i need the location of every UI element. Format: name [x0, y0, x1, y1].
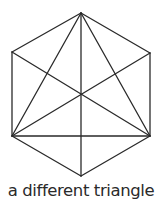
inner-line: [12, 13, 81, 136]
hexagon-triangle-diagram: [0, 0, 162, 180]
hexagon-edge: [81, 136, 150, 176]
caption: a different triangle: [0, 180, 162, 202]
hexagon-edge: [81, 13, 150, 53]
hexagon-edge: [12, 136, 81, 176]
